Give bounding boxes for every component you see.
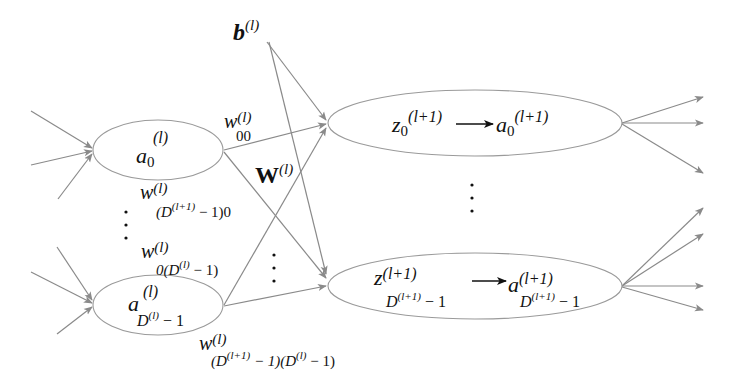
outgoing-edges-zD: [622, 208, 703, 310]
incoming-edges-a0: [31, 111, 92, 199]
weight-label-w00: w(l) 00: [224, 109, 252, 144]
weight-label-wD0: w(l) (D(l+1) − 1)0: [140, 180, 231, 221]
svg-text:w(l): w(l): [140, 180, 168, 203]
svg-text:(l): (l): [153, 129, 168, 147]
svg-text:w(l): w(l): [199, 331, 227, 354]
svg-text:(l): (l): [143, 283, 158, 301]
svg-text:(D(l+1) − 1)0: (D(l+1) − 1)0: [156, 200, 231, 221]
bias-edges: [267, 42, 326, 274]
bias-label: b(l): [233, 17, 259, 45]
weight-matrix-label: W(l): [255, 161, 293, 188]
svg-text:0(D(l) − 1): 0(D(l) − 1): [156, 258, 218, 279]
outgoing-edges-z0: [622, 97, 703, 173]
incoming-edges-aD: [31, 247, 92, 334]
node-z0: [328, 90, 622, 156]
svg-text:00: 00: [236, 128, 251, 144]
weight-label-w0D: w(l) 0(D(l) − 1): [141, 239, 218, 279]
svg-text:D(l) − 1: D(l) − 1: [136, 309, 184, 329]
vertical-ellipsis-weights: [272, 253, 275, 282]
neural-network-diagram: b(l) W(l) (l) a0 (l) a D(l) − 1 z0(l+1) …: [0, 0, 735, 389]
vertical-ellipsis-inputs: [124, 210, 127, 239]
weight-label-wDD: w(l) (D(l+1) − 1)(D(l) − 1): [199, 331, 335, 370]
svg-text:(D(l+1) − 1)(D(l) − 1): (D(l+1) − 1)(D(l) − 1): [211, 349, 335, 370]
vertical-ellipsis-outputs: [470, 183, 473, 212]
svg-text:w(l): w(l): [141, 239, 169, 262]
weight-edges: [224, 124, 326, 306]
